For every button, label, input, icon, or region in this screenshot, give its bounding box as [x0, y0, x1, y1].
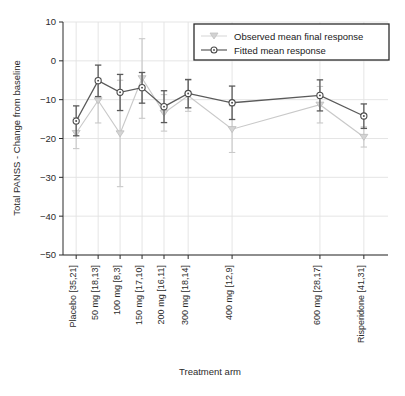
x-axis-category-label: 50 mg [18,13] [90, 265, 100, 320]
data-point-center [75, 120, 77, 122]
legend-label-observed: Observed mean final response [234, 31, 363, 42]
data-point-center [231, 102, 233, 104]
legend-label-fitted: Fitted mean response [234, 45, 326, 56]
panss-treatment-arm-chart: 100−10−20−30−40−50 Placebo [35,21]50 mg … [0, 0, 405, 396]
x-axis-category-label: 400 mg [12,9] [224, 265, 234, 320]
x-axis-category-label: 100 mg [8,3] [112, 265, 122, 315]
x-axis-category-label: 200 mg [16,11] [156, 265, 166, 324]
y-tick-label: −10 [40, 94, 56, 105]
legend: Observed mean final response Fitted mean… [194, 24, 389, 60]
data-point-center [163, 106, 165, 108]
y-tick-label: 0 [51, 55, 56, 66]
x-axis-category-label: 150 mg [17,10] [134, 265, 144, 325]
data-point-center [141, 87, 143, 89]
data-point-center [97, 80, 99, 82]
data-point-center [363, 115, 365, 117]
data-point-center [119, 91, 121, 93]
y-tick-label: −30 [40, 172, 56, 183]
y-tick-label: −50 [40, 249, 56, 260]
x-axis-title: Treatment arm [179, 366, 241, 377]
x-axis-category-label: 600 mg [28,17] [312, 265, 322, 325]
y-tick-label: 10 [45, 16, 56, 27]
x-axis-category-label: Placebo [35,21] [68, 265, 78, 328]
y-tick-label: −40 [40, 211, 56, 222]
x-axis-category-label: 300 mg [18,14] [180, 265, 190, 325]
x-axis-category-label: Risperidone [41,31] [356, 265, 366, 343]
circle-center-dot-icon [213, 49, 215, 51]
data-point-center [187, 93, 189, 95]
data-point-center [319, 94, 321, 96]
y-axis-title: Total PANSS - Change from baseline [11, 60, 22, 216]
y-tick-label: −20 [40, 133, 56, 144]
